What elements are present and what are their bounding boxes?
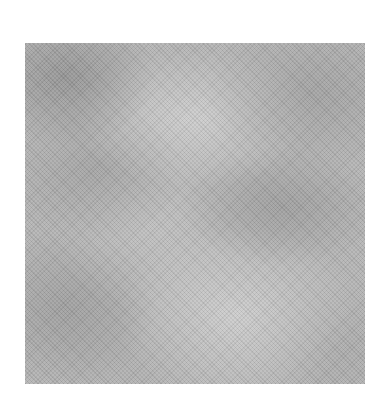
texture-swatch xyxy=(25,43,365,384)
weave-pattern-overlay xyxy=(25,43,365,384)
